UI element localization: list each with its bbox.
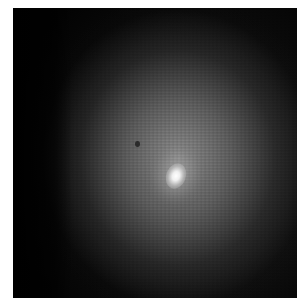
image-panel (13, 8, 297, 298)
grain-texture (13, 8, 297, 298)
dark-speck (135, 141, 140, 147)
